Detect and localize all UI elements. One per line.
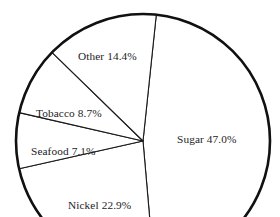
pie-label-nickel: Nickel 22.9% bbox=[68, 200, 131, 211]
pie-label-other: Other 14.4% bbox=[78, 51, 137, 62]
pie-label-tobacco: Tobacco 8.7% bbox=[36, 108, 102, 119]
pie-chart: Sugar 47.0% Nickel 22.9% Seafood 7.1% To… bbox=[0, 0, 280, 217]
pie-slice-sugar[interactable] bbox=[143, 15, 270, 217]
pie-label-seafood: Seafood 7.1% bbox=[31, 146, 96, 157]
pie-label-sugar: Sugar 47.0% bbox=[177, 134, 236, 145]
